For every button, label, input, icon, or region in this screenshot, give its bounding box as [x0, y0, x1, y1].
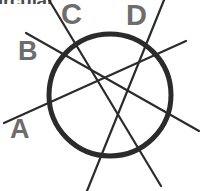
line-label-b: B [18, 38, 38, 65]
line-label-c: C [61, 0, 82, 29]
circle-secants-figure [0, 0, 202, 191]
line-label-d: D [126, 1, 147, 30]
diagram-canvas: ircular A B C D [0, 0, 202, 191]
line-label-a: A [10, 116, 30, 143]
